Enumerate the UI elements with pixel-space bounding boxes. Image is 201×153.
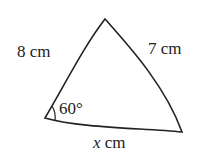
right-side-label: 7 cm: [148, 40, 182, 57]
bottom-side-variable: x: [93, 133, 101, 152]
bottom-side-label: x cm: [93, 134, 126, 151]
angle-arc: [52, 106, 55, 121]
angle-label: 60°: [59, 100, 83, 117]
bottom-side-unit: cm: [101, 133, 126, 152]
triangle-figure: [0, 0, 201, 153]
left-side-label: 8 cm: [17, 43, 51, 60]
